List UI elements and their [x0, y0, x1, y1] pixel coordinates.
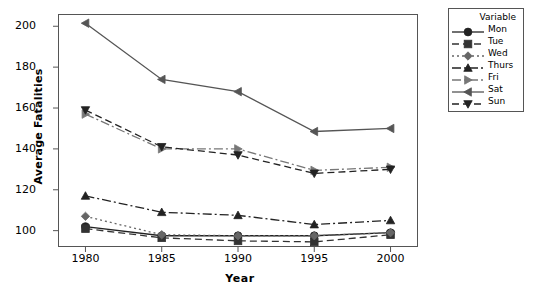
x-tick-label: 1985 [140, 252, 184, 265]
data-point-triangle-up [386, 216, 394, 224]
legend-label: Thurs [485, 60, 513, 70]
y-tick-label: 180 [6, 61, 36, 72]
data-point-triangle-left [234, 87, 242, 95]
series-line [85, 110, 390, 173]
legend-label: Tue [485, 36, 503, 46]
series-thurs [81, 192, 394, 228]
x-tick-label: 1980 [63, 252, 107, 265]
series-line [85, 114, 390, 170]
data-point-triangle-up [81, 192, 89, 200]
data-point-square [82, 225, 90, 233]
y-tick-label: 160 [6, 102, 36, 113]
legend-item-sun[interactable]: Sun [451, 95, 520, 107]
legend-label: Fri [485, 72, 499, 82]
legend-swatch-triangle-right-icon [451, 71, 485, 83]
x-tick-label: 1995 [292, 252, 336, 265]
legend-item-tue[interactable]: Tue [451, 35, 520, 47]
series-sat [81, 19, 394, 136]
legend-item-fri[interactable]: Fri [451, 71, 520, 83]
legend: Variable MonTueWedThursFriSatSun [448, 8, 524, 112]
series-sun [81, 107, 394, 178]
legend-swatch-triangle-up-icon [451, 59, 485, 71]
legend-item-wed[interactable]: Wed [451, 47, 520, 59]
legend-swatch-triangle-left-icon [451, 83, 485, 95]
legend-label: Sun [485, 96, 505, 106]
legend-item-thurs[interactable]: Thurs [451, 59, 520, 71]
legend-swatch-square-icon [451, 35, 485, 47]
x-tick-label: 2000 [369, 252, 413, 265]
y-axis-tick-labels: 100120140160180200 [0, 0, 36, 291]
legend-label: Mon [485, 24, 507, 34]
x-axis-title: Year [60, 272, 420, 285]
y-tick-label: 100 [6, 225, 36, 236]
legend-label: Wed [485, 48, 508, 58]
legend-item-mon[interactable]: Mon [451, 23, 520, 35]
series-fri [82, 110, 395, 175]
data-point-triangle-left [81, 19, 89, 27]
legend-title: Variable [451, 12, 520, 22]
series-line [85, 23, 390, 131]
y-tick-label: 120 [6, 184, 36, 195]
y-tick-label: 140 [6, 143, 36, 154]
legend-swatch-diamond-icon [451, 47, 485, 59]
legend-swatch-triangle-down-icon [451, 95, 485, 107]
plot-series-layer [58, 14, 418, 247]
data-point-triangle-down [234, 152, 242, 160]
data-point-triangle-left [386, 124, 394, 132]
legend-items: MonTueWedThursFriSatSun [451, 23, 520, 107]
x-tick-label: 1990 [216, 252, 260, 265]
legend-item-sat[interactable]: Sat [451, 83, 520, 95]
chart-root: Average Fatalities 100120140160180200 19… [0, 0, 534, 291]
x-axis-tick-labels: 19801985199019952000 [0, 252, 534, 268]
y-tick-label: 200 [6, 20, 36, 31]
series-line [85, 196, 390, 225]
legend-swatch-circle-icon [451, 23, 485, 35]
legend-label: Sat [485, 84, 503, 94]
data-point-diamond [81, 212, 89, 220]
data-point-triangle-up [234, 211, 242, 219]
data-point-triangle-left [310, 127, 318, 135]
